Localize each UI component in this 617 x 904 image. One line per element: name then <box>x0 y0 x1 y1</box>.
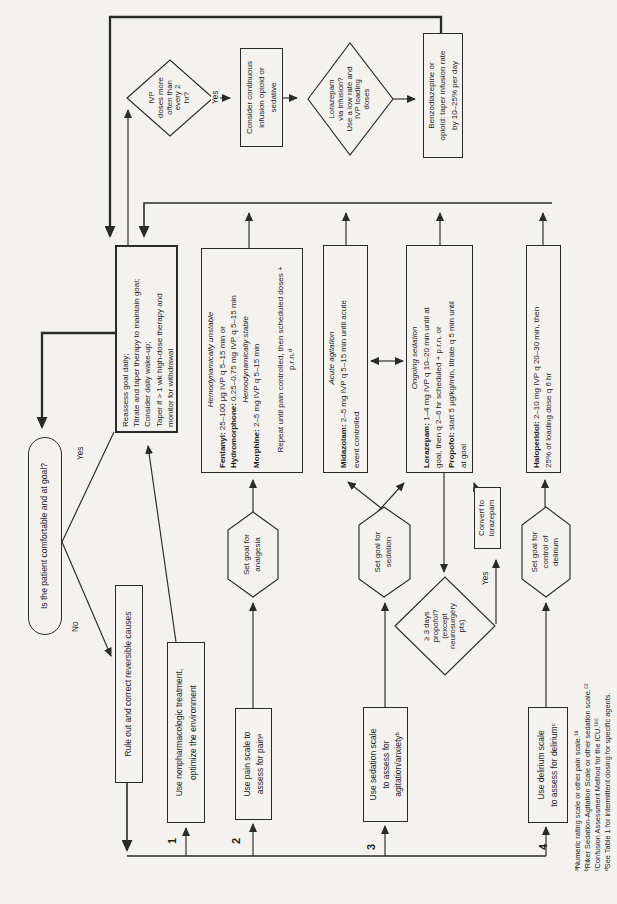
drug-name: Haloperidol: <box>532 421 541 468</box>
sedation-scale-line: Use sedation scale <box>367 708 380 821</box>
delirium-goal-hex: Set goal for control of delirium <box>530 507 562 597</box>
footnote-d: ᵈSee Table 1 for intermittent dosing for… <box>603 684 613 871</box>
drug-name: Lorazepam: <box>422 423 431 468</box>
rule-out-box: Rule out and correct reversible causes <box>115 585 143 783</box>
pain-scale-line: Use pain scale to <box>241 709 254 819</box>
drug-name: Propofol: <box>447 432 456 468</box>
ivp-frequency-diamond: IVP doses more often than every 2 hr? <box>148 59 192 136</box>
analgesia-drugs-line: Fentanyl: 25–100 μg IVP q 5–15 min or <box>217 251 229 468</box>
analgesia-drugs-box: Hemodynamically unstable Fentanyl: 25–10… <box>201 248 303 473</box>
step-number-4: 4 <box>537 844 549 850</box>
rule-out-text: Rule out and correct reversible causes <box>123 611 133 756</box>
footnote-c: ᶜConfusion Assessment Method for the ICU… <box>593 684 603 871</box>
yes-label-oval: Yes <box>76 447 85 460</box>
lorazepam-diamond-line: doses <box>363 43 372 155</box>
benzo-taper-line: Benzodiazepine or <box>426 34 437 157</box>
nonpharmacologic-box: Use nonpharmacologic treatment, optimize… <box>167 642 205 823</box>
consider-infusion-line: infusion opioid or <box>256 49 268 146</box>
pain-scale-line: assess for painᵃ <box>254 709 267 819</box>
analgesia-drugs-line: Morphine: 2–5 mg IVP q 5–15 min <box>251 251 263 468</box>
delirium-scale-box: Use delirium scale to assess for deliriu… <box>528 707 568 823</box>
acute-sedation-line: event controlled <box>351 248 363 468</box>
sedation-scale-line: to assess for <box>380 708 393 821</box>
pain-scale-box: Use pain scale to assess for painᵃ <box>235 708 272 820</box>
ongoing-sedation-line: at goal <box>458 248 470 468</box>
delirium-hex-line: delirium <box>551 507 562 597</box>
consider-infusion-line: sedative <box>268 49 280 146</box>
convert-line: lorazepam <box>487 488 497 548</box>
nonpharm-line: optimize the environment <box>187 643 201 822</box>
acute-sedation-line: Acute agitation <box>326 248 338 468</box>
analgesia-drugs-line: p.r.n.ᵈ <box>286 251 298 468</box>
lorazepam-infusion-diamond: Lorazepam via infusion? Use a low rate a… <box>328 43 372 155</box>
delirium-hex-line: control of <box>541 507 552 597</box>
no-arrow <box>62 542 111 656</box>
analgesia-goal-hex: Set goal for analgesia <box>242 512 263 597</box>
drug-feedback-rail <box>144 203 552 236</box>
analgesia-hex-line: analgesia <box>253 512 264 597</box>
connector-layer <box>0 0 617 904</box>
benzo-taper-line: opioid: taper infusion rate <box>437 34 448 157</box>
footnote-b: ᵇRiker Sedation-Agitation Scale or other… <box>583 684 593 871</box>
ongoing-sedation-box: Ongoing sedation Lorazepam: 1–4 mg IVP q… <box>406 245 473 473</box>
step-number-2: 2 <box>230 838 242 844</box>
drug-name: Hydromorphone: <box>229 403 238 468</box>
nonpharm-to-reassess-arrow <box>148 446 176 642</box>
yes-label-ivp: Yes <box>211 90 220 105</box>
ongoing-sedation-line: goal, then q 2–6 hr scheduled + p.r.n. o… <box>433 248 445 468</box>
ongoing-sedation-line: Ongoing sedation <box>409 248 421 468</box>
haloperidol-line: Haloperidol: 2–10 mg IVP q 20–30 min, th… <box>531 248 543 468</box>
reassess-line: Consider daily wake-up; <box>142 249 153 427</box>
step-number-3: 3 <box>365 844 377 850</box>
comfort-goal-oval: Is the patient comfortable and at goal? <box>28 437 62 635</box>
haloperidol-box: Haloperidol: 2–10 mg IVP q 20–30 min, th… <box>526 245 561 473</box>
analgesia-drugs-line: Hemodynamically unstable <box>205 251 217 468</box>
propofol-diamond-line: pts) <box>458 577 467 675</box>
propofol-3days-diamond: ≥ 3 days propofol? (except neurosurgery … <box>423 577 467 675</box>
reassess-line: Titrate and taper therapy to maintain go… <box>131 249 142 427</box>
sedation-hex-line: Set goal for <box>373 507 384 597</box>
consider-infusion-line: Consider continuous <box>244 49 256 146</box>
analgesia-drugs-line: Repeat until pain controlled, then sched… <box>275 251 287 468</box>
acute-sedation-line: Midazolam: 2–5 mg IVP q 5–15 min until a… <box>338 248 350 468</box>
sedation-hex-line: sedation <box>384 507 395 597</box>
reassess-box: Reassess goal daily; Titrate and taper t… <box>115 245 178 433</box>
consider-infusion-box: Consider continuous infusion opioid or s… <box>240 48 283 147</box>
haloperidol-line: 25% of loading dose q 6 hr <box>543 248 555 468</box>
reassess-line: monitor for withdrawal <box>165 249 176 427</box>
delirium-scale-line: Use delirium scale <box>535 708 548 822</box>
sedation-scale-box: Use sedation scale to assess for agitati… <box>363 707 408 822</box>
convert-line: Convert to <box>477 488 487 548</box>
drug-name: Morphine: <box>252 429 261 468</box>
sedation-goal-hex: Set goal for sedation <box>373 507 394 597</box>
reassess-line: Taper if > 1 wk high-dose therapy and <box>154 249 165 427</box>
convert-lorazepam-box: Convert to lorazepam <box>474 487 501 549</box>
comfort-goal-text: Is the patient comfortable and at goal? <box>39 463 49 609</box>
sedation-scale-line: agitation/anxietyᵇ <box>392 708 405 821</box>
page: Is the patient comfortable and at goal? … <box>0 0 617 904</box>
delirium-scale-line: to assess for deliriumᶜ <box>548 708 561 822</box>
nonpharm-line: Use nonpharmacologic treatment, <box>173 643 187 822</box>
analgesia-hex-line: Set goal for <box>242 512 253 597</box>
drug-name: Fentanyl: <box>218 432 227 468</box>
footnote-a: ᵃNumeric rating scale or other pain scal… <box>573 684 583 871</box>
yes-label-propofol: Yes <box>481 571 490 586</box>
ongoing-sedation-line: Lorazepam: 1–4 mg IVP q 10–20 min until … <box>421 248 433 468</box>
acute-sedation-box: Acute agitation Midazolam: 2–5 mg IVP q … <box>323 245 368 473</box>
delirium-hex-line: Set goal for <box>530 507 541 597</box>
reassess-to-oval-arrow <box>42 333 115 427</box>
ongoing-sedation-line: Propofol: start 5 μg/kg/min, titrate q 5… <box>446 248 458 468</box>
benzo-taper-box: Benzodiazepine or opioid: taper infusion… <box>423 33 463 158</box>
benzo-taper-line: by 10–25% per day <box>449 34 460 157</box>
no-label-oval: No <box>71 622 80 632</box>
drug-name: Midazolam: <box>339 424 348 468</box>
ivp-diamond-line: hr? <box>183 59 192 136</box>
flowchart-canvas: Is the patient comfortable and at goal? … <box>0 0 617 904</box>
step-number-1: 1 <box>166 838 178 844</box>
reassess-line: Reassess goal daily; <box>120 249 131 427</box>
analgesia-drugs-line: Hemodynamically stable <box>240 251 252 468</box>
analgesia-drugs-line: Hydromorphone: 0.25–0.75 mg IVP q 5–15 m… <box>228 251 240 468</box>
yes-line <box>62 432 114 542</box>
footnotes: ᵃNumeric rating scale or other pain scal… <box>573 684 613 871</box>
analgesia-drugs-line <box>263 251 275 468</box>
